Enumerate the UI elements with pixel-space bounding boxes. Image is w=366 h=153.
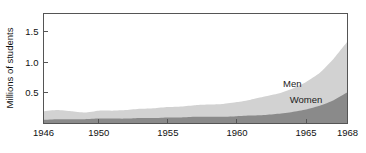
- annotation-men: Men: [283, 78, 301, 89]
- chart-figure: 0.51.01.5 194619501955196019651968 Milli…: [0, 0, 366, 153]
- y-tick-label: 0.5: [25, 87, 38, 98]
- x-tick-label: 1965: [295, 127, 316, 138]
- x-tick-label: 1950: [88, 127, 109, 138]
- y-axis-tick-labels: 0.51.01.5: [25, 26, 38, 98]
- x-tick-label: 1955: [157, 127, 178, 138]
- y-axis-title: Millions of students: [4, 27, 15, 108]
- stacked-area-chart: 0.51.01.5 194619501955196019651968 Milli…: [0, 0, 366, 153]
- y-tick-label: 1.5: [25, 26, 38, 37]
- x-tick-label: 1946: [33, 127, 54, 138]
- x-tick-label: 1968: [337, 127, 358, 138]
- x-tick-label: 1960: [226, 127, 247, 138]
- y-tick-label: 1.0: [25, 57, 38, 68]
- annotation-women: Women: [290, 94, 323, 105]
